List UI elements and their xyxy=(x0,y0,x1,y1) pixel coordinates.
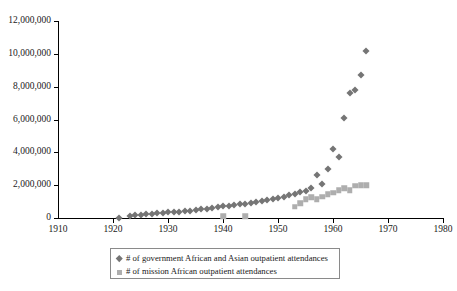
y-tick-label: 8,000,000 xyxy=(13,82,51,92)
data-point-diamond xyxy=(329,146,336,153)
diamond-marker-icon xyxy=(116,255,123,262)
y-tick-label: 10,000,000 xyxy=(8,49,51,59)
data-point-diamond xyxy=(362,47,369,54)
data-point-square xyxy=(220,213,226,219)
y-tick-label: 6,000,000 xyxy=(13,115,51,125)
data-point-diamond xyxy=(313,172,320,179)
data-point-diamond xyxy=(340,114,347,121)
legend-label-government: # of government African and Asian outpat… xyxy=(126,252,328,265)
y-tick-label: 4,000,000 xyxy=(13,147,51,157)
y-tick-label: 12,000,000 xyxy=(8,16,51,26)
y-tick-label: 0 xyxy=(46,213,51,223)
data-point-square xyxy=(363,182,369,188)
x-tick-label: 1940 xyxy=(203,224,243,234)
x-tick-label: 1950 xyxy=(258,224,298,234)
data-point-diamond xyxy=(115,214,122,221)
x-tick xyxy=(113,219,114,223)
legend-item-government[interactable]: # of government African and Asian outpat… xyxy=(116,252,334,265)
chart-legend: # of government African and Asian outpat… xyxy=(110,248,340,279)
square-marker-icon xyxy=(116,268,123,275)
x-tick-label: 1920 xyxy=(93,224,133,234)
data-point-diamond xyxy=(335,154,342,161)
data-point-diamond xyxy=(318,180,325,187)
plot-area xyxy=(58,21,443,218)
legend-label-mission: # of mission African outpatient attendan… xyxy=(126,265,277,278)
x-tick xyxy=(223,219,224,223)
data-point-square xyxy=(242,213,248,219)
y-tick xyxy=(54,218,58,219)
data-point-diamond xyxy=(324,165,331,172)
x-tick xyxy=(168,219,169,223)
x-tick xyxy=(278,219,279,223)
x-tick-label: 1970 xyxy=(368,224,408,234)
x-tick-label: 1930 xyxy=(148,224,188,234)
y-tick-label: 2,000,000 xyxy=(13,180,51,190)
x-tick xyxy=(388,219,389,223)
data-point-diamond xyxy=(357,72,364,79)
x-tick xyxy=(443,219,444,223)
x-tick-label: 1980 xyxy=(423,224,457,234)
x-tick-label: 1910 xyxy=(38,224,78,234)
legend-item-mission[interactable]: # of mission African outpatient attendan… xyxy=(116,265,334,278)
x-tick xyxy=(333,219,334,223)
x-tick-label: 1960 xyxy=(313,224,353,234)
